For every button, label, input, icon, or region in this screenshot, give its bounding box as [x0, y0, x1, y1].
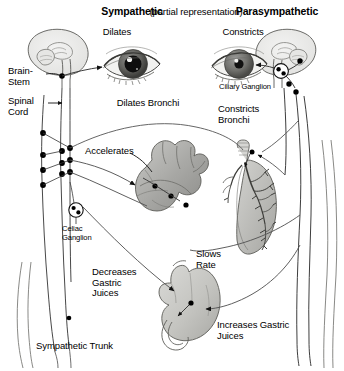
label-constricts: Constricts — [222, 27, 263, 38]
diagram-illustration — [0, 0, 344, 371]
eye-dilated-pupil-illustration — [103, 47, 160, 85]
label-brain-stem: Brain- Stem — [8, 66, 33, 87]
celiac-ganglion-illustration — [69, 182, 83, 224]
lung-bronchial-tree-illustration — [223, 140, 276, 254]
title-parasympathetic: Parasympathetic — [236, 6, 319, 18]
label-dilates: Dilates — [103, 27, 131, 38]
sympathetic-chain-ganglia — [40, 73, 73, 320]
heart-illustration — [135, 141, 208, 211]
autonomic-nervous-system-diagram: Sympathetic (partial representation) Par… — [0, 0, 344, 371]
gastric-plexus-ganglia — [188, 300, 193, 305]
label-increases-gastric-juices: Increases Gastric Juices — [217, 320, 289, 341]
brain-sagittal-left-illustration — [28, 29, 88, 88]
label-sympathetic-trunk: Sympathetic Trunk — [36, 341, 113, 352]
label-decreases-gastric-juices: Decreases Gastric Juices — [92, 267, 137, 299]
label-constricts-bronchi: Constricts Bronchi — [218, 104, 259, 125]
label-celiac-ganglion: Celiac Ganglion — [62, 225, 92, 242]
stomach-illustration — [159, 261, 220, 350]
label-dilates-bronchi: Dilates Bronchi — [117, 98, 179, 109]
label-spinal-cord: Spinal Cord — [8, 96, 34, 117]
label-accelerates: Accelerates — [85, 146, 134, 157]
sympathetic-trunk-illustration — [42, 88, 71, 352]
label-slows-rate: Slows Rate — [196, 249, 221, 270]
label-ciliary-ganglion: Ciliary Ganglion — [219, 83, 271, 92]
brain-sagittal-right-illustration — [256, 29, 316, 88]
title-partial-representation: (partial representation) — [149, 7, 242, 18]
